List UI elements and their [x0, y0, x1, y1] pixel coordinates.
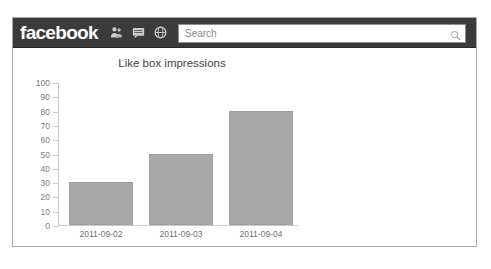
y-tick-label: 0	[45, 221, 50, 231]
y-tick-mark	[53, 169, 58, 170]
notifications-globe-icon[interactable]	[154, 26, 167, 39]
y-tick-mark	[53, 226, 58, 227]
app-window: facebook	[12, 17, 477, 247]
y-tick-label: 40	[41, 164, 50, 174]
bar[interactable]	[149, 154, 213, 226]
y-tick-label: 20	[41, 192, 50, 202]
y-tick-mark	[53, 83, 58, 84]
header-icon-group	[110, 26, 167, 39]
chart-panel: Like box impressions 0102030405060708090…	[13, 48, 476, 246]
facebook-logo[interactable]: facebook	[20, 23, 98, 42]
y-tick-mark	[53, 126, 58, 127]
y-tick-mark	[53, 155, 58, 156]
y-tick-label: 80	[41, 107, 50, 117]
y-tick-label: 10	[41, 207, 50, 217]
y-tick-mark	[53, 140, 58, 141]
friend-requests-icon[interactable]	[110, 26, 123, 39]
y-tick-label: 70	[41, 121, 50, 131]
y-tick-label: 60	[41, 135, 50, 145]
y-tick-label: 50	[41, 150, 50, 160]
y-tick-mark	[53, 97, 58, 98]
y-tick-label: 100	[36, 78, 50, 88]
bar-chart-plot: 0102030405060708090100 2011-09-022011-09…	[58, 83, 298, 226]
bar[interactable]	[229, 111, 293, 225]
y-tick-mark	[53, 197, 58, 198]
chart-title: Like box impressions	[0, 57, 476, 69]
x-tick-label: 2011-09-02	[61, 229, 141, 239]
search-container	[178, 23, 466, 42]
bar[interactable]	[69, 182, 133, 225]
y-axis-line	[58, 83, 59, 226]
search-input[interactable]	[178, 24, 466, 43]
y-tick-label: 90	[41, 92, 50, 102]
y-tick-mark	[53, 212, 58, 213]
y-tick-label: 30	[41, 178, 50, 188]
x-tick-label: 2011-09-04	[221, 229, 301, 239]
y-tick-mark	[53, 183, 58, 184]
facebook-header-bar: facebook	[13, 18, 476, 48]
x-axis-line	[58, 225, 298, 226]
y-tick-mark	[53, 112, 58, 113]
messages-icon[interactable]	[132, 26, 145, 39]
x-tick-label: 2011-09-03	[141, 229, 221, 239]
